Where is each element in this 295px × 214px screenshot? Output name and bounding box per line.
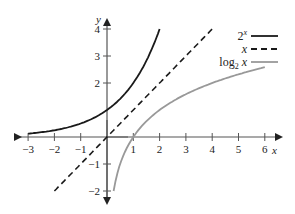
x-tick-label: 3 [183,143,189,155]
y-tick-label: 3 [95,50,101,62]
tick-labels: −3−2−1123456−2−1234 [22,23,268,197]
y-axis-label: y [95,13,101,25]
y-tick-label: −1 [88,158,100,170]
series-x [54,29,212,191]
x-tick-label: 6 [262,143,268,155]
legend: 2xxlog2 x [219,28,278,71]
series-log2-x [114,67,265,191]
ticks [28,29,265,191]
legend-label: log2 x [219,55,247,71]
y-tick-label: −2 [88,185,100,197]
curves [28,29,265,191]
legend-label: x [241,42,248,56]
x-tick-label: 5 [236,143,242,155]
x-tick-label: 4 [209,143,215,155]
x-tick-label: −3 [22,143,34,155]
legend-label: 2x [237,28,247,43]
x-tick-label: 2 [157,143,163,155]
x-tick-label: 1 [131,143,137,155]
x-tick-label: −2 [49,143,61,155]
x-tick-label: −1 [75,143,87,155]
y-tick-label: 2 [95,77,101,89]
x-axis-label: x [271,144,277,156]
chart: −3−2−1123456−2−1234 y x 2xxlog2 x [0,0,295,214]
